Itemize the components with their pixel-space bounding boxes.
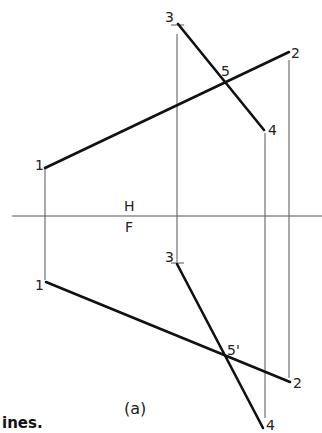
label-front-1: 1 bbox=[35, 277, 44, 293]
orthographic-projection-diagram: 3 2 5 4 1 H F 3 1 5' 2 4 (a) ines. bbox=[0, 0, 322, 433]
line-1-2-front bbox=[46, 282, 290, 382]
label-top-4: 4 bbox=[268, 122, 277, 138]
fold-label-f: F bbox=[125, 219, 133, 235]
label-top-2: 2 bbox=[291, 45, 300, 61]
caption-fragment: ines. bbox=[2, 414, 43, 432]
label-front-5: 5' bbox=[227, 342, 240, 358]
line-3-4-front bbox=[177, 264, 263, 428]
fold-label-h: H bbox=[124, 198, 135, 214]
label-top-1: 1 bbox=[35, 157, 44, 173]
label-front-4: 4 bbox=[266, 417, 275, 433]
figure-sublabel: (a) bbox=[124, 399, 146, 418]
label-front-2: 2 bbox=[293, 375, 302, 391]
label-top-3: 3 bbox=[165, 9, 174, 25]
label-front-3: 3 bbox=[165, 249, 174, 265]
label-top-5: 5 bbox=[221, 63, 230, 79]
line-1-2-top bbox=[45, 52, 289, 168]
